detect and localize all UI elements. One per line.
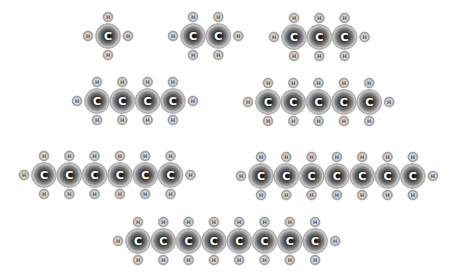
carbon-label: C [282, 170, 290, 183]
hydrogen-atom: H [310, 217, 320, 227]
hydrogen-atom: H [263, 116, 273, 126]
hydrogen-atom: H [383, 190, 393, 200]
hydrogen-atom: H [188, 12, 198, 22]
hydrogen-label: H [387, 99, 391, 105]
carbon-atom: C [85, 89, 110, 114]
carbon-label: C [365, 96, 373, 109]
hydrogen-atom: H [133, 217, 143, 227]
carbon-atom: C [306, 90, 331, 115]
carbon-atom: C [281, 90, 306, 115]
hydrogen-label: H [246, 99, 250, 105]
hydrogen-label: H [411, 192, 415, 198]
hydrogen-label: H [93, 153, 97, 159]
hydrogen-label: H [171, 79, 175, 85]
hydrogen-label: H [188, 172, 192, 178]
hydrogen-label: H [161, 257, 165, 263]
hydrogen-label: H [239, 173, 243, 179]
carbon-atom: C [277, 229, 302, 254]
hydrogen-atom: H [256, 190, 266, 200]
hydrogen-label: H [343, 15, 347, 21]
carbon-label: C [91, 169, 99, 182]
hydrogen-label: H [342, 80, 346, 86]
hydrogen-atom: H [140, 189, 150, 199]
carbon-atom: C [357, 90, 382, 115]
hydrogen-atom: H [188, 96, 198, 106]
carbon-atom: C [303, 229, 328, 254]
carbon-label: C [340, 96, 348, 109]
hydrogen-atom: H [281, 190, 291, 200]
hydrogen-atom: H [143, 77, 153, 87]
hydrogen-atom: H [314, 13, 324, 23]
hydrogen-label: H [146, 79, 150, 85]
hydrogen-atom: H [133, 255, 143, 265]
hydrogen-label: H [161, 219, 165, 225]
hydrogen-atom: H [307, 152, 317, 162]
hydrogen-atom: H [213, 50, 223, 60]
hydrogen-label: H [212, 219, 216, 225]
carbon-label: C [315, 31, 323, 44]
hydrogen-atom: H [115, 189, 125, 199]
hydrogen-label: H [42, 191, 46, 197]
carbon-atom: C [256, 90, 281, 115]
hydrogen-atom: H [340, 13, 350, 23]
carbon-atom: C [135, 89, 160, 114]
carbon-label: C [189, 30, 197, 43]
hydrogen-label: H [272, 34, 276, 40]
hydrogen-label: H [266, 80, 270, 86]
carbon-atom: C [307, 25, 332, 50]
hydrogen-label: H [335, 154, 339, 160]
carbon-atom: C [282, 25, 307, 50]
carbon-label: C [116, 169, 124, 182]
hydrogen-atom: H [103, 50, 113, 60]
hydrogen-label: H [288, 257, 292, 263]
carbon-label: C [358, 170, 366, 183]
hydrogen-atom: H [186, 170, 196, 180]
molecule-propane: HHHHHHHHCCC [269, 13, 370, 61]
hydrogen-label: H [118, 153, 122, 159]
hydrogen-label: H [291, 118, 295, 124]
hydrogen-label: H [317, 80, 321, 86]
carbon-atom: C [96, 24, 121, 49]
carbon-atom: C [227, 229, 252, 254]
hydrogen-label: H [93, 191, 97, 197]
carbon-atom: C [350, 164, 375, 189]
carbon-atom: C [160, 89, 185, 114]
hydrogen-atom: H [260, 255, 270, 265]
hydrogen-atom: H [39, 189, 49, 199]
hydrogen-atom: H [260, 217, 270, 227]
hydrogen-label: H [191, 98, 195, 104]
hydrogen-atom: H [364, 116, 374, 126]
carbon-atom: C [324, 164, 349, 189]
carbon-atom: C [206, 24, 231, 49]
hydrogen-atom: H [168, 115, 178, 125]
hydrogen-label: H [95, 117, 99, 123]
hydrogen-label: H [342, 118, 346, 124]
carbon-label: C [185, 235, 193, 248]
hydrogen-atom: H [117, 115, 127, 125]
carbon-atom: C [32, 163, 57, 188]
carbon-label: C [308, 170, 316, 183]
hydrogen-label: H [367, 80, 371, 86]
carbon-label: C [264, 96, 272, 109]
hydrogen-label: H [317, 15, 321, 21]
carbon-atom: C [158, 163, 183, 188]
carbon-label: C [166, 169, 174, 182]
hydrogen-atom: H [330, 236, 340, 246]
carbon-label: C [141, 169, 149, 182]
carbon-label: C [341, 31, 349, 44]
carbon-label: C [144, 95, 152, 108]
hydrogen-label: H [212, 257, 216, 263]
hydrogen-atom: H [123, 31, 133, 41]
hydrogen-label: H [86, 33, 90, 39]
hydrogen-atom: H [113, 236, 123, 246]
hydrogen-label: H [262, 219, 266, 225]
hydrogen-atom: H [158, 217, 168, 227]
molecule-octane: HHHHHHHHHHHHHHHHHHCCCCCCCC [113, 217, 340, 265]
hydrogen-atom: H [357, 152, 367, 162]
hydrogen-label: H [411, 154, 415, 160]
carbon-label: C [235, 235, 243, 248]
hydrogen-atom: H [310, 255, 320, 265]
hydrogen-label: H [22, 172, 26, 178]
hydrogen-atom: H [72, 96, 82, 106]
hydrogen-label: H [292, 15, 296, 21]
